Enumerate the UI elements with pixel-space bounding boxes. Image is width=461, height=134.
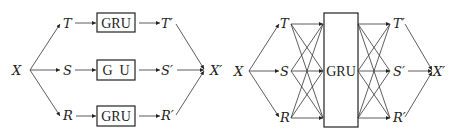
right-label-tprime: T′ bbox=[393, 16, 405, 31]
right-label-rprime: R′ bbox=[392, 110, 406, 125]
output-connections bbox=[358, 24, 390, 118]
gru-box-s-label: G U bbox=[102, 63, 129, 78]
gru-box-r-label: GRU bbox=[101, 109, 131, 124]
left-label-r: R bbox=[62, 108, 73, 123]
input-connections bbox=[291, 24, 323, 118]
arrow-tprime-to-xprime bbox=[176, 24, 204, 69]
right-label-s: S bbox=[280, 64, 289, 79]
right-label-t: T bbox=[280, 16, 290, 31]
gru-shared-box-label: GRU bbox=[326, 64, 356, 79]
left-input-x: X bbox=[11, 63, 22, 78]
arrow-rprime-to-xprime-right bbox=[405, 72, 432, 117]
arrow-tprime-to-xprime-right bbox=[405, 24, 432, 70]
right-output-xprime: X′ bbox=[432, 64, 445, 79]
left-label-tprime: T′ bbox=[161, 16, 173, 31]
arrow-x-to-t-right bbox=[249, 24, 279, 71]
left-label-s: S bbox=[63, 63, 72, 78]
right-label-sprime: S′ bbox=[393, 64, 405, 79]
left-diagram: X T S R GRU G U GRU T′ S′ R′ X′ bbox=[11, 13, 222, 126]
left-label-t: T bbox=[63, 16, 73, 31]
left-label-sprime: S′ bbox=[161, 63, 173, 78]
right-diagram: X T S R GRU bbox=[233, 13, 445, 127]
arrow-x-to-r bbox=[30, 70, 60, 116]
right-input-x: X bbox=[233, 64, 244, 79]
arrow-x-to-t bbox=[30, 24, 60, 70]
right-label-r: R bbox=[279, 110, 290, 125]
arrow-rprime-to-xprime bbox=[176, 71, 204, 115]
arrow-x-to-r-right bbox=[249, 71, 279, 117]
diagram-canvas: X T S R GRU G U GRU T′ S′ R′ X′ X bbox=[0, 0, 461, 134]
left-label-rprime: R′ bbox=[160, 108, 174, 123]
left-output-xprime: X′ bbox=[209, 63, 222, 78]
gru-box-t-label: GRU bbox=[101, 16, 131, 31]
